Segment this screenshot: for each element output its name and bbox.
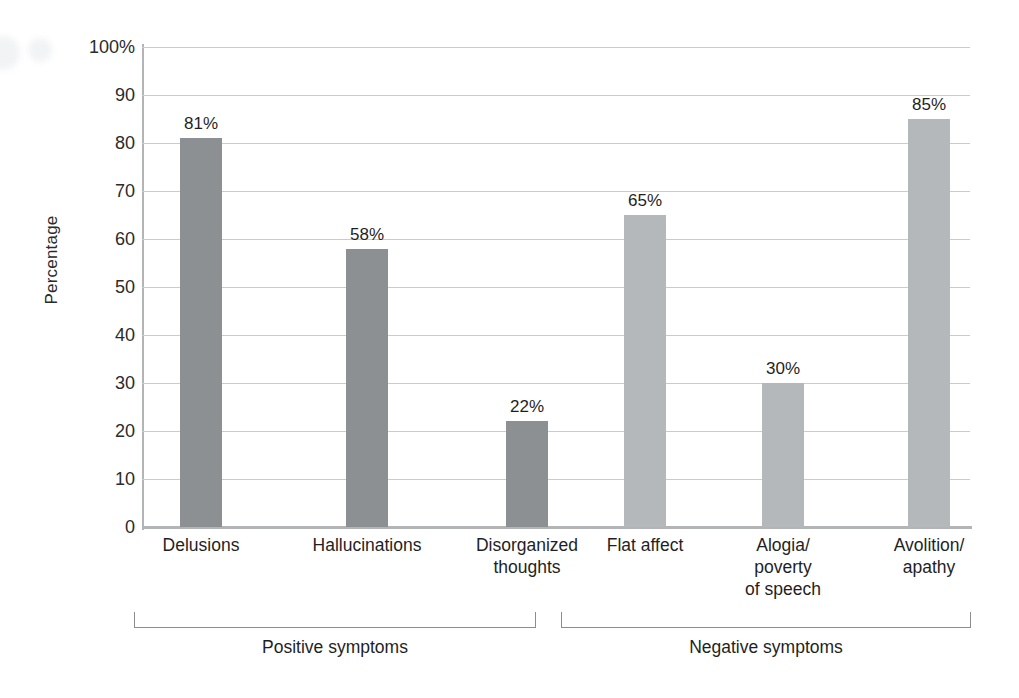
plot-area: 81% 58% 22% 65% 30% 85%	[142, 47, 970, 527]
group-label-negative-symptoms: Negative symptoms	[689, 637, 843, 658]
gridline-80	[142, 143, 970, 144]
y-tick-80: 80	[65, 133, 135, 154]
chart-page: Percentage 100% 90 80 70 60 50 40 30 20 …	[0, 0, 1019, 698]
category-label-avolition: Avolition/ apathy	[894, 534, 965, 578]
bar-avolition[interactable]	[908, 119, 950, 527]
y-tick-90: 90	[65, 85, 135, 106]
y-tick-50: 50	[65, 277, 135, 298]
bar-flat-affect[interactable]	[624, 215, 666, 527]
bar-value-delusions: 81%	[184, 114, 218, 134]
bracket-negative-symptoms	[561, 612, 971, 628]
gridline-70	[142, 191, 970, 192]
gridline-20	[142, 431, 970, 432]
y-tick-20: 20	[65, 421, 135, 442]
category-label-hallucinations: Hallucinations	[313, 534, 422, 556]
bar-alogia[interactable]	[762, 383, 804, 527]
group-label-positive-symptoms: Positive symptoms	[262, 637, 408, 658]
bar-value-avolition: 85%	[912, 95, 946, 115]
scan-artifact-2	[28, 38, 52, 62]
y-tick-70: 70	[65, 181, 135, 202]
gridline-90	[142, 95, 970, 96]
gridline-40	[142, 335, 970, 336]
gridline-10	[142, 479, 970, 480]
bar-delusions[interactable]	[180, 138, 222, 527]
bar-value-alogia: 30%	[766, 359, 800, 379]
y-tick-30: 30	[65, 373, 135, 394]
bar-value-hallucinations: 58%	[350, 225, 384, 245]
bar-value-disorganized-thoughts: 22%	[510, 397, 544, 417]
gridline-60	[142, 239, 970, 240]
bar-disorganized-thoughts[interactable]	[506, 421, 548, 527]
category-label-flat-affect: Flat affect	[607, 534, 684, 556]
scan-artifact-1	[0, 36, 20, 70]
y-tick-10: 10	[65, 469, 135, 490]
gridline-30	[142, 383, 970, 384]
category-label-delusions: Delusions	[163, 534, 240, 556]
bracket-positive-symptoms	[134, 612, 536, 628]
bar-hallucinations[interactable]	[346, 249, 388, 527]
gridline-50	[142, 287, 970, 288]
y-tick-100: 100%	[65, 37, 135, 58]
y-tick-40: 40	[65, 325, 135, 346]
category-label-disorganized-thoughts: Disorganized thoughts	[476, 534, 578, 578]
y-tick-60: 60	[65, 229, 135, 250]
category-label-alogia: Alogia/ poverty of speech	[745, 534, 821, 600]
y-axis-tick-labels: 100% 90 80 70 60 50 40 30 20 10 0	[55, 47, 135, 527]
gridline-100	[142, 47, 970, 48]
bar-value-flat-affect: 65%	[628, 191, 662, 211]
y-tick-0: 0	[65, 517, 135, 538]
